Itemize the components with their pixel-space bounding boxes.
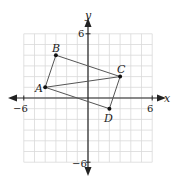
x-axis-left-arrow-icon — [8, 95, 17, 102]
coordinate-plane: x y −6 6 6 −6 A B C D — [0, 0, 177, 182]
y-tick-min-label: −6 — [72, 158, 87, 169]
x-axis-label: x — [164, 92, 171, 105]
segment-dc — [109, 77, 120, 109]
point-d — [107, 107, 111, 111]
point-label-d: D — [103, 112, 113, 125]
point-label-c: C — [117, 63, 126, 76]
point-label-a: A — [34, 82, 43, 95]
labels: x y −6 6 6 −6 A B C D — [13, 9, 171, 169]
y-axis-label: y — [84, 9, 92, 22]
segment-ab — [45, 55, 56, 87]
point-label-b: B — [51, 42, 60, 55]
segments — [45, 55, 120, 108]
y-tick-max-label: 6 — [78, 28, 84, 39]
x-tick-max-label: 6 — [147, 103, 153, 114]
axes — [8, 18, 166, 176]
point-a — [43, 85, 47, 89]
segment-ca — [45, 77, 120, 88]
x-tick-min-label: −6 — [13, 103, 28, 114]
